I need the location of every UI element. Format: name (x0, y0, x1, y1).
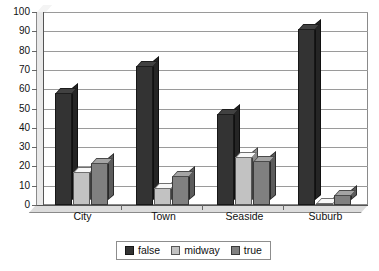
plot-area (44, 12, 368, 205)
bar-front (55, 93, 72, 205)
y-tick-label: 10 (0, 181, 30, 191)
bar-front (154, 188, 171, 205)
bar-side (315, 19, 321, 200)
bar-side (153, 56, 159, 200)
bar-front (334, 195, 351, 205)
y-tick-mark (32, 166, 37, 167)
bar-front (172, 176, 189, 205)
legend-label: false (138, 245, 160, 256)
y-tick-label: 30 (0, 142, 30, 152)
x-tick-label: Town (124, 210, 204, 222)
y-tick-mark (32, 89, 37, 90)
bar-city-midway (73, 172, 90, 205)
y-tick-label: 40 (0, 123, 30, 133)
y-tick-label: 90 (0, 26, 30, 36)
bar-front (235, 157, 252, 205)
bar-front (217, 114, 234, 205)
bar-city-true (91, 163, 108, 205)
x-tick-label: City (43, 210, 123, 222)
y-tick-label: 70 (0, 65, 30, 75)
y-tick-mark (32, 51, 37, 52)
y-tick-mark (32, 31, 37, 32)
y-tick-mark (32, 128, 37, 129)
y-tick-label: 20 (0, 161, 30, 171)
bar-front (136, 66, 153, 205)
legend-swatch-icon (231, 246, 240, 255)
y-axis-line (43, 12, 44, 206)
bar-seaside-midway (235, 157, 252, 205)
y-axis-ticks: 1009080706050403020100 (0, 0, 36, 271)
y-tick-label: 100 (0, 7, 30, 17)
chart-legend: falsemidwaytrue (116, 241, 271, 260)
y-tick-label: 60 (0, 84, 30, 94)
x-tick-label: Seaside (205, 210, 285, 222)
legend-item-true[interactable]: true (231, 245, 262, 256)
y-tick-mark (32, 12, 37, 13)
legend-label: true (244, 245, 262, 256)
y-tick-mark (32, 186, 37, 187)
bar-town-midway (154, 188, 171, 205)
bar-front (91, 163, 108, 205)
y-tick-mark (32, 70, 37, 71)
x-tick-mark (202, 205, 203, 210)
x-tick-label: Suburb (286, 210, 366, 222)
bar-town-true (172, 176, 189, 205)
legend-item-midway[interactable]: midway (171, 245, 220, 256)
y-tick-mark (32, 205, 37, 206)
x-tick-mark (121, 205, 122, 210)
bar-chart: 1009080706050403020100 CityTownSeasideSu… (0, 0, 379, 271)
bar-suburb-true (334, 195, 351, 205)
bar-front (298, 29, 315, 205)
legend-swatch-icon (125, 246, 134, 255)
bar-front (253, 161, 270, 205)
bar-seaside-false (217, 114, 234, 205)
y-tick-label: 50 (0, 104, 30, 114)
bar-city-false (55, 93, 72, 205)
y-tick-label: 0 (0, 200, 30, 210)
legend-label: midway (184, 245, 220, 256)
bar-front (73, 172, 90, 205)
x-tick-mark (283, 205, 284, 210)
bar-suburb-false (298, 29, 315, 205)
bar-seaside-true (253, 161, 270, 205)
legend-item-false[interactable]: false (125, 245, 160, 256)
y-tick-mark (32, 147, 37, 148)
legend-swatch-icon (171, 246, 180, 255)
bar-town-false (136, 66, 153, 205)
y-tick-label: 80 (0, 46, 30, 56)
y-tick-mark (32, 109, 37, 110)
gridline (44, 12, 368, 13)
